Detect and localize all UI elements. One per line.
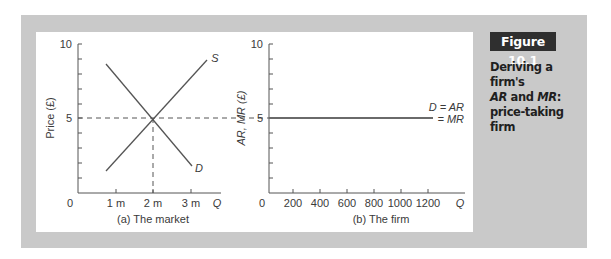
firm-x-tick-1000: 1000 xyxy=(388,197,412,209)
firm-caption: (b) The firm xyxy=(353,213,410,225)
market-y-ticks xyxy=(78,44,82,178)
firm-x-tick-800: 800 xyxy=(365,197,383,209)
firm-chart xyxy=(269,44,465,193)
market-y-tick-10: 10 xyxy=(60,38,72,50)
firm-x-tick-1200: 1200 xyxy=(416,197,440,209)
market-x-axis-label: Q xyxy=(213,197,222,209)
market-labels: 10 5 0 1 m 2 m 3 m Q (a) The market Pric… xyxy=(44,38,222,225)
market-x-tick-1m: 1 m xyxy=(107,197,125,209)
firm-x-tick-600: 600 xyxy=(338,197,356,209)
firm-origin: 0 xyxy=(259,197,265,209)
firm-line-label-mr: = MR xyxy=(437,113,464,125)
firm-x-tick-200: 200 xyxy=(284,197,302,209)
market-x-tick-3m: 3 m xyxy=(182,197,200,209)
charts-svg: 10 5 0 1 m 2 m 3 m Q (a) The market Pric… xyxy=(0,0,611,259)
market-x-tick-2m: 2 m xyxy=(144,197,162,209)
demand-label: D xyxy=(195,162,203,174)
market-y-tick-5: 5 xyxy=(66,112,72,124)
firm-x-ticks xyxy=(293,189,428,193)
firm-line-label-d-ar: D = AR xyxy=(429,101,464,113)
demand-curve xyxy=(106,64,192,166)
firm-x-tick-400: 400 xyxy=(311,197,329,209)
market-origin: 0 xyxy=(67,197,73,209)
firm-y-ticks xyxy=(269,44,273,178)
supply-curve xyxy=(106,60,207,171)
firm-y-tick-10: 10 xyxy=(251,38,263,50)
market-y-axis-label: Price (£) xyxy=(44,97,56,139)
firm-y-axis-label: AR, MR (£) xyxy=(235,90,247,146)
supply-label: S xyxy=(211,52,219,64)
firm-y-tick-5: 5 xyxy=(257,112,263,124)
market-caption: (a) The market xyxy=(117,213,189,225)
firm-x-axis-label: Q xyxy=(456,197,465,209)
